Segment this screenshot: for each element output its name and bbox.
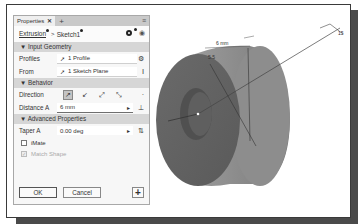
from-field[interactable]: ➚ 1 Sketch Plane [57, 67, 137, 77]
taper-flip-icon[interactable]: ⇅ [138, 127, 144, 135]
profiles-value: 1 Profile [68, 55, 90, 61]
section-input-geometry[interactable]: ▼ Input Geometry [14, 42, 149, 52]
taper-input[interactable]: 0.00 deg ▸ [57, 126, 133, 135]
taper-label: Taper A [19, 127, 57, 134]
status-dot-icon [80, 29, 83, 32]
status-dot-icon [46, 29, 49, 32]
profiles-label: Profiles [19, 55, 57, 62]
section-behavior[interactable]: ▼ Behavior [14, 78, 149, 88]
match-shape-row: ✓ Match Shape [14, 148, 149, 159]
close-icon[interactable]: ✕ [47, 16, 52, 26]
panel-tab-bar: Properties ✕ + ≡ [14, 16, 149, 26]
breadcrumb-extrusion[interactable]: Extrusion [19, 30, 46, 38]
distance-dimension-label[interactable]: 6 mm [216, 40, 229, 46]
match-shape-label: Match Shape [31, 151, 66, 157]
eye-icon[interactable]: ◉ [139, 29, 145, 37]
direction-flipped-icon[interactable]: ↙ [80, 90, 90, 100]
direction-default-icon[interactable]: ↗ [63, 90, 73, 100]
apply-plus-button[interactable]: + [132, 187, 144, 198]
secondary-dimension-label: 5.5 [208, 54, 215, 60]
from-label: From [19, 68, 57, 75]
select-cursor-icon: ➚ [60, 68, 65, 75]
status-dot-icon [134, 28, 137, 31]
profiles-row: Profiles ➚ 1 Profile ⚙ [14, 52, 149, 65]
direction-label: Direction [19, 91, 57, 98]
dropdown-icon[interactable]: ▸ [127, 104, 130, 111]
tab-label: Properties [17, 16, 44, 26]
direction-row: Direction ↗ ↙ ⤢ ⤡ · [14, 88, 149, 101]
cancel-button[interactable]: Cancel [63, 187, 101, 198]
profiles-field[interactable]: ➚ 1 Profile [57, 54, 137, 64]
from-options-icon[interactable]: Ⅰ [142, 68, 144, 76]
distance-label: Distance A [19, 104, 57, 111]
distance-input[interactable]: 6 mm ▸ [57, 103, 133, 113]
ok-button[interactable]: OK [19, 187, 57, 198]
from-value: 1 Sketch Plane [68, 68, 108, 74]
direction-symmetric-icon[interactable]: ⤢ [97, 90, 107, 100]
distance-extent-icon[interactable]: ⊥ [138, 104, 144, 112]
taper-row: Taper A 0.00 deg ▸ ⇅ [14, 124, 149, 137]
distance-row: Distance A 6 mm ▸ ⊥ [14, 101, 149, 114]
dialog-buttons: OK Cancel + [19, 187, 144, 198]
select-cursor-icon: ➚ [60, 55, 65, 62]
tab-properties[interactable]: Properties ✕ [14, 16, 55, 26]
profile-gear-icon[interactable]: ⚙ [138, 55, 144, 63]
properties-panel: Properties ✕ + ≡ Extrusion > Sketch1 ◉ ▼… [13, 15, 150, 205]
3d-viewport[interactable]: 6 mm 5.5 15 [150, 6, 348, 216]
section-advanced[interactable]: ▼ Advanced Properties [14, 114, 149, 124]
leader-label: 15 [338, 30, 344, 36]
dropdown-icon[interactable]: ▸ [127, 127, 130, 134]
imate-row: iMate [14, 137, 149, 148]
imate-checkbox[interactable] [21, 140, 27, 146]
direction-asymmetric-icon[interactable]: ⤡ [114, 90, 124, 100]
match-shape-checkbox[interactable]: ✓ [21, 151, 27, 157]
gear-icon[interactable] [126, 30, 132, 36]
direction-more-icon[interactable]: · [142, 91, 144, 98]
breadcrumb: Extrusion > Sketch1 ◉ [14, 26, 149, 42]
imate-label: iMate [31, 140, 46, 146]
menu-icon[interactable]: ≡ [142, 17, 146, 24]
extruded-part-icon [150, 6, 348, 216]
breadcrumb-separator: > [51, 31, 55, 37]
distance-value: 6 mm [60, 104, 75, 110]
from-row: From ➚ 1 Sketch Plane Ⅰ [14, 65, 149, 78]
add-tab-icon[interactable]: + [59, 17, 64, 26]
taper-value: 0.00 deg [60, 128, 83, 134]
breadcrumb-sketch1[interactable]: Sketch1 [57, 31, 81, 38]
